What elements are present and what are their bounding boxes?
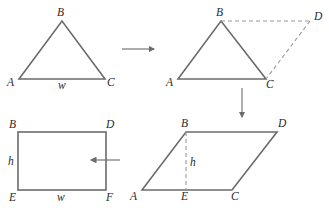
- vertex-label-e: E: [8, 191, 16, 203]
- base-label-w: w: [57, 191, 65, 203]
- vertex-label-a: A: [129, 190, 138, 202]
- height-label-h: h: [190, 156, 196, 168]
- panel-triangle: B A C w: [6, 6, 115, 91]
- vertex-label-d: D: [313, 10, 323, 22]
- triangle-abc-copy: [178, 21, 266, 79]
- vertex-label-b: B: [57, 6, 64, 18]
- vertex-label-e: E: [180, 190, 188, 202]
- rectangle-bdfe: [18, 132, 106, 190]
- vertex-label-b: B: [9, 118, 16, 130]
- height-label-h: h: [8, 155, 14, 167]
- panel-triangle-doubled: B D A C: [165, 6, 323, 90]
- vertex-label-c: C: [231, 190, 239, 202]
- panel-parallelogram: B D A E C h: [129, 117, 287, 202]
- vertex-label-d: D: [277, 117, 287, 129]
- base-label-w: w: [58, 79, 66, 91]
- vertex-label-a: A: [165, 76, 174, 88]
- vertex-label-d: D: [105, 118, 115, 130]
- vertex-label-f: F: [105, 191, 114, 203]
- vertex-label-c: C: [107, 76, 115, 88]
- parallelogram-abdc: [142, 132, 277, 190]
- vertex-label-a: A: [6, 76, 15, 88]
- area-derivation-diagram: B A C w B D A C B D A E C h B D E F h w: [0, 0, 329, 211]
- dashed-edge-dc: [266, 21, 310, 79]
- vertex-label-b: B: [216, 6, 223, 18]
- vertex-label-b: B: [181, 117, 188, 129]
- vertex-label-c: C: [266, 78, 274, 90]
- triangle-abc: [19, 21, 105, 79]
